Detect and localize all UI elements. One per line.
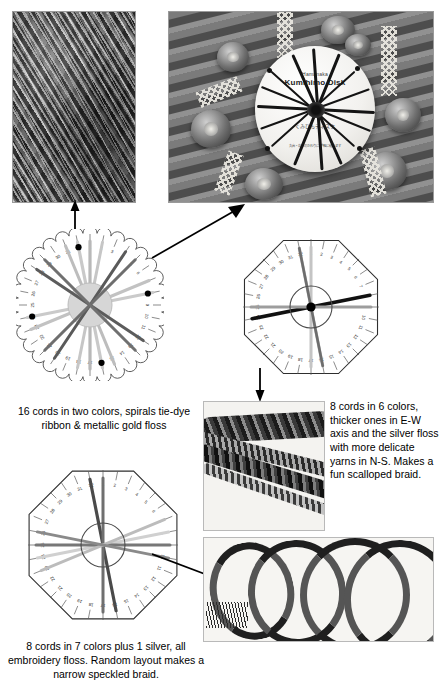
photo-braid-long: long speckled braid coiled (203, 537, 434, 642)
caption-16cords: 16 cords in two colors, spirals tie-dye … (4, 405, 204, 433)
caption-8cords-7col: 8 cords in 7 colors plus 1 silver, all e… (2, 640, 210, 682)
spool-icon (345, 34, 371, 56)
svg-text:25: 25 (30, 302, 35, 307)
zigzag-cord (214, 151, 243, 196)
zigzag-cord (381, 26, 397, 96)
photo-disk-on-deck: Hamanaka Kumihimo Disk くみひもディスク 丸台・角台のかわ… (168, 11, 434, 203)
spool-icon (217, 42, 249, 72)
arrow-disk2-to-braid-photo (249, 368, 271, 402)
photo-cords-macro: close-up of braided cords (12, 11, 136, 203)
disk-marker-dot (355, 66, 360, 71)
disk-marker-dot (265, 146, 270, 151)
spool-icon (385, 98, 421, 132)
disk-8cords-7col: 1234567891011121314151617181920212223242… (22, 462, 184, 628)
page-root: close-up of braided cords Hamanaka Kumih… (0, 0, 444, 691)
arrow-disk1-to-deck-photo (150, 198, 246, 260)
spool-icon (245, 168, 283, 200)
disk-16cords: 1234567891011121314151617181920212223242… (16, 229, 164, 381)
caption-8cords-6col: 8 cords in 6 colors, thicker ones in E-W… (330, 400, 442, 482)
zigzag-cord (196, 76, 243, 107)
braid-tassel (206, 602, 248, 628)
disk-marker-dot (357, 146, 362, 151)
photo-braid-scalloped: scalloped braid close-up (203, 401, 325, 531)
spool-icon (191, 110, 231, 148)
cord-hub (307, 102, 325, 118)
disk-8cords-6col: 1234567891011121314151617181920212223242… (238, 232, 384, 382)
